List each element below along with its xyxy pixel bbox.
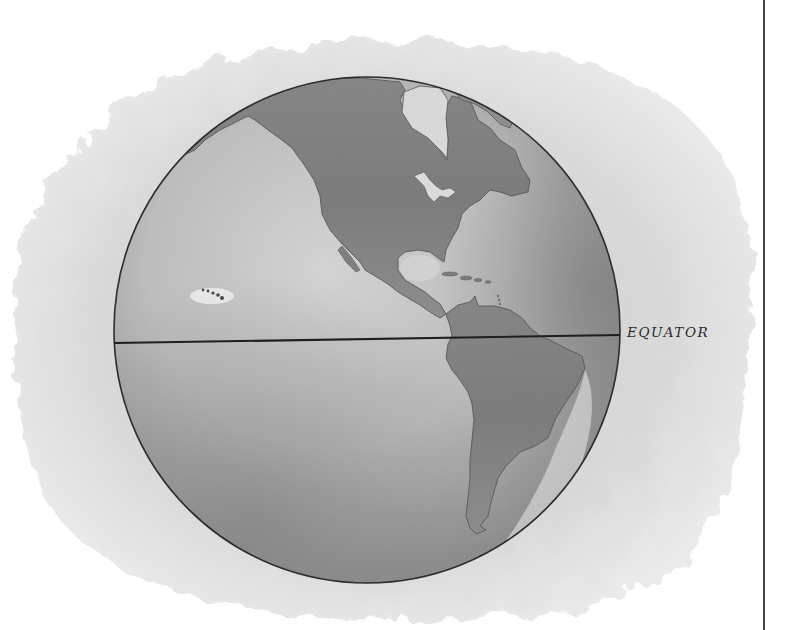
vertical-rule — [763, 0, 765, 630]
equator-label: EQUATOR — [627, 324, 709, 340]
globe-illustration — [0, 0, 785, 630]
